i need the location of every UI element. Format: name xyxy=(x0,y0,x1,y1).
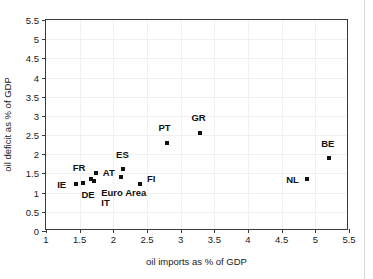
y-tick-mark xyxy=(42,97,46,98)
y-tick-label: 1 xyxy=(34,187,39,198)
data-point-label-nl: NL xyxy=(286,173,299,184)
y-tick-mark xyxy=(42,39,46,40)
x-tick-mark xyxy=(214,229,215,233)
gridline-vertical xyxy=(214,20,215,229)
gridline-horizontal xyxy=(46,173,347,174)
data-point-label-pt: PT xyxy=(158,122,170,133)
data-point-nl xyxy=(305,177,309,181)
x-tick-label: 4.5 xyxy=(275,234,288,245)
y-axis-title-text: oil deficit as % of GDP xyxy=(2,77,13,172)
y-tick-label: 5 xyxy=(34,34,39,45)
y-tick-mark xyxy=(42,154,46,155)
y-tick-mark xyxy=(42,20,46,21)
data-point-at xyxy=(94,171,98,175)
y-tick-label: 3 xyxy=(34,110,39,121)
x-tick-label: 2 xyxy=(111,234,116,245)
x-tick-label: 1 xyxy=(43,234,48,245)
gridline-horizontal xyxy=(46,78,347,79)
data-point-label-es: ES xyxy=(116,149,129,160)
y-tick-label: 2.5 xyxy=(26,130,39,141)
x-tick-label: 2.5 xyxy=(140,234,153,245)
data-point-ie xyxy=(74,182,78,186)
data-point-it xyxy=(92,179,96,183)
x-tick-mark xyxy=(181,229,182,233)
data-point-label-be: BE xyxy=(321,138,334,149)
data-point-label-euro-area: Euro Area xyxy=(101,186,146,197)
x-tick-mark xyxy=(248,229,249,233)
gridline-horizontal xyxy=(46,97,347,98)
x-tick-label: 4 xyxy=(245,234,250,245)
gridline-vertical xyxy=(113,20,114,229)
data-point-fr xyxy=(81,181,85,185)
x-axis-title: oil imports as % of GDP xyxy=(45,256,348,267)
gridline-vertical xyxy=(248,20,249,229)
data-point-pt xyxy=(165,141,169,145)
x-tick-mark xyxy=(113,229,114,233)
data-point-es xyxy=(121,167,125,171)
y-tick-label: 4.5 xyxy=(26,53,39,64)
y-tick-label: 0.5 xyxy=(26,206,39,217)
y-tick-label: 4 xyxy=(34,72,39,83)
gridline-horizontal xyxy=(46,154,347,155)
y-axis-title: oil deficit as % of GDP xyxy=(0,19,14,230)
data-point-label-ie: IE xyxy=(57,179,66,190)
x-tick-mark xyxy=(349,229,350,233)
gridline-vertical xyxy=(181,20,182,229)
gridline-vertical xyxy=(80,20,81,229)
x-tick-mark xyxy=(147,229,148,233)
y-tick-label: 0 xyxy=(34,226,39,237)
gridline-horizontal xyxy=(46,135,347,136)
x-tick-label: 1.5 xyxy=(73,234,86,245)
y-tick-mark xyxy=(42,135,46,136)
y-tick-mark xyxy=(42,193,46,194)
data-point-label-fi: FI xyxy=(147,172,155,183)
x-tick-mark xyxy=(46,229,47,233)
y-tick-mark xyxy=(42,78,46,79)
gridline-vertical xyxy=(315,20,316,229)
x-tick-label: 3 xyxy=(178,234,183,245)
data-point-label-it: IT xyxy=(101,197,109,208)
page-edge-sliver xyxy=(364,0,373,279)
x-tick-label: 5 xyxy=(313,234,318,245)
gridline-vertical xyxy=(282,20,283,229)
y-tick-mark xyxy=(42,58,46,59)
data-point-gr xyxy=(198,131,202,135)
x-tick-label: 3.5 xyxy=(208,234,221,245)
y-tick-mark xyxy=(42,116,46,117)
gridline-horizontal xyxy=(46,212,347,213)
x-axis-title-text: oil imports as % of GDP xyxy=(146,256,247,267)
y-tick-label: 3.5 xyxy=(26,91,39,102)
data-point-be xyxy=(327,156,331,160)
x-tick-mark xyxy=(80,229,81,233)
y-tick-mark xyxy=(42,173,46,174)
y-tick-label: 2 xyxy=(34,149,39,160)
x-tick-mark xyxy=(315,229,316,233)
x-tick-label: 5.5 xyxy=(342,234,355,245)
data-point-label-de: DE xyxy=(82,188,95,199)
data-point-label-at: AT xyxy=(103,166,115,177)
scatter-chart-figure: oil deficit as % of GDP 00.511.522.533.5… xyxy=(0,0,373,279)
data-point-euro-area xyxy=(119,175,123,179)
plot-area: 00.511.522.533.544.555.5 11.522.533.544.… xyxy=(45,19,348,230)
gridline-horizontal xyxy=(46,58,347,59)
gridline-horizontal xyxy=(46,39,347,40)
x-tick-mark xyxy=(282,229,283,233)
y-tick-label: 5.5 xyxy=(26,15,39,26)
data-point-fi xyxy=(138,182,142,186)
data-point-label-fr: FR xyxy=(73,162,86,173)
y-tick-label: 1.5 xyxy=(26,168,39,179)
data-point-label-gr: GR xyxy=(191,111,205,122)
gridline-vertical xyxy=(147,20,148,229)
y-tick-mark xyxy=(42,212,46,213)
